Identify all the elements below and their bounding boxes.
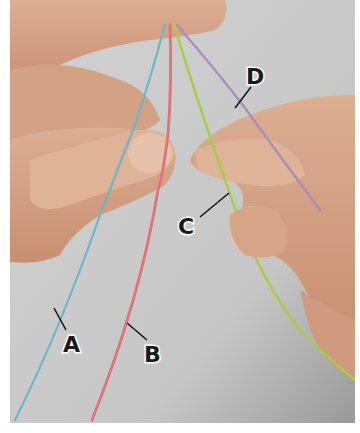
label-b-text: B — [144, 342, 161, 367]
label-a-text: A — [63, 332, 80, 357]
thread-photo: A B C D — [10, 0, 355, 423]
label-d-text: D — [246, 64, 264, 89]
label-c-text: C — [178, 214, 194, 239]
